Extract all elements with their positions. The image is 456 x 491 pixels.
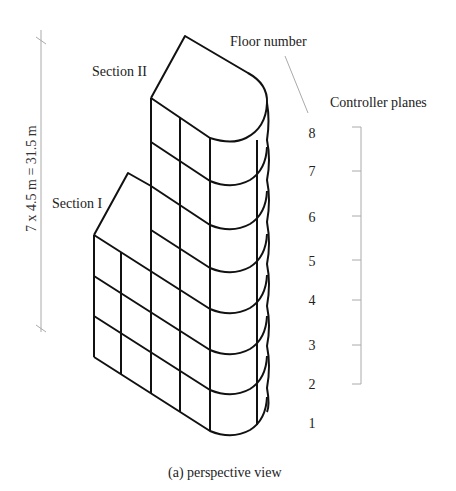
floor-number-8: 8 (305, 126, 319, 142)
section-i-label: Section I (52, 196, 102, 212)
section-ii-label: Section II (92, 64, 147, 80)
floor-number-7: 7 (305, 164, 319, 180)
controller-planes-title: Controller planes (330, 95, 427, 111)
floor-number-title: Floor number (230, 34, 307, 50)
controller-planes-bracket (352, 127, 361, 384)
building-structure (94, 36, 269, 435)
height-dimension-label: 7 x 4.5 m = 31.5 m (24, 125, 40, 232)
floor-number-4: 4 (305, 293, 319, 309)
floor-number-2: 2 (305, 377, 319, 393)
floor-number-6: 6 (305, 210, 319, 226)
floor-number-3: 3 (305, 338, 319, 354)
figure-caption: (a) perspective view (168, 465, 282, 481)
floor-number-1: 1 (305, 416, 319, 432)
floor-number-leader (285, 56, 308, 113)
building-drawing (0, 0, 456, 491)
floor-number-5: 5 (305, 254, 319, 270)
